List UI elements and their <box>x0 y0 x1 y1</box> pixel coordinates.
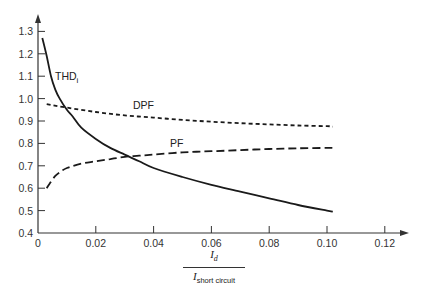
y-tick-label: 1.2 <box>18 48 33 60</box>
y-tick-label: 0.8 <box>18 137 33 149</box>
y-tick-label: 0.7 <box>18 160 33 172</box>
y-tick-label: 1.0 <box>18 93 33 105</box>
x-tick-label: 0.10 <box>317 237 338 249</box>
y-tick-label: 1.1 <box>18 70 33 82</box>
series-pf <box>47 148 333 188</box>
y-axis-arrow-icon <box>35 14 41 23</box>
label-dpf: DPF <box>133 99 154 111</box>
label-thd: THDi <box>55 70 79 85</box>
axes <box>35 14 409 236</box>
x-tick-label: 0.04 <box>143 237 164 249</box>
series-dpf <box>47 104 333 126</box>
x-axis-label: Id Ishort circuit <box>183 248 245 287</box>
y-tick-label: 1.3 <box>18 25 33 37</box>
y-tick-label: 0.4 <box>18 227 33 239</box>
y-tick-label: 0.6 <box>18 182 33 194</box>
x-axis-label-numerator: Id <box>183 248 245 265</box>
ticks: 0.40.50.60.70.80.91.01.11.21.300.020.040… <box>18 25 395 249</box>
y-tick-label: 0.5 <box>18 205 33 217</box>
x-tick-label: 0.08 <box>259 237 280 249</box>
y-tick-label: 0.9 <box>18 115 33 127</box>
x-tick-label: 0.12 <box>375 237 396 249</box>
series-group <box>42 38 333 212</box>
series-thd-i <box>42 38 333 212</box>
fraction-bar <box>183 267 245 268</box>
x-tick-label: 0.02 <box>86 237 107 249</box>
label-pf: PF <box>170 137 183 149</box>
x-tick-label: 0 <box>35 237 41 249</box>
x-axis-label-denominator: Ishort circuit <box>183 270 245 287</box>
x-axis-arrow-icon <box>400 230 409 236</box>
